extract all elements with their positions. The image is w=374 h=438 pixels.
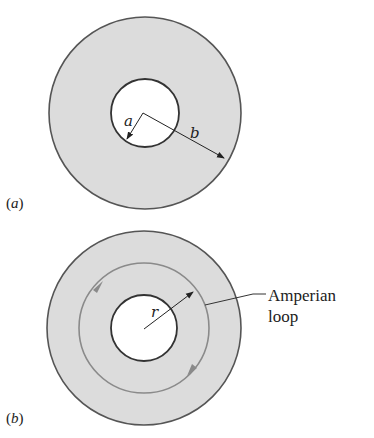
inner-hole <box>111 79 179 147</box>
figure-a: a b (a) <box>6 17 241 212</box>
label-r: r <box>151 303 159 321</box>
figure-b: r Amperian loop (b) <box>6 231 336 427</box>
callout-amperian: Amperian <box>268 286 336 305</box>
label-a: a <box>124 112 133 130</box>
callout-loop: loop <box>268 307 298 326</box>
caption-a: (a) <box>6 195 24 212</box>
caption-b: (b) <box>6 410 24 427</box>
label-b: b <box>190 124 200 142</box>
inner-hole <box>111 295 177 361</box>
ampere-law-diagram: a b (a) r Amperian loop (b) <box>0 0 374 438</box>
